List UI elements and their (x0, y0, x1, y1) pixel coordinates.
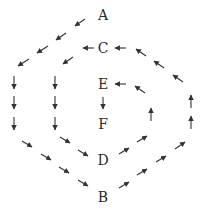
arrow-icon (137, 169, 147, 175)
node-d: D (97, 153, 108, 167)
arrow-icon (135, 86, 145, 93)
arrow-icon (175, 142, 185, 149)
arrow-icon (78, 180, 88, 186)
arrow-icon (60, 137, 70, 143)
arrow-icon (41, 154, 51, 160)
arrow-icon (137, 136, 147, 142)
node-c: C (98, 41, 109, 55)
arrow-icon (119, 148, 129, 154)
node-b: B (98, 190, 108, 204)
arrow-icon (37, 46, 48, 53)
arrow-icon (75, 19, 85, 26)
arrow-icon (154, 61, 164, 68)
node-e: E (98, 77, 108, 91)
node-f: F (98, 117, 108, 131)
arrow-icon (56, 33, 66, 40)
arrow-icon (78, 150, 88, 156)
arrow-icon (59, 167, 69, 173)
diagram: A C E F D B (0, 0, 204, 215)
arrow-icon (63, 57, 73, 64)
arrow-icon (119, 182, 129, 188)
arrow-icon (22, 141, 32, 147)
arrow-icon (18, 59, 29, 66)
arrows-layer (0, 0, 204, 215)
arrow-icon (173, 75, 183, 82)
arrow-icon (136, 49, 146, 56)
arrow-icon (156, 156, 166, 162)
node-a: A (98, 8, 108, 22)
